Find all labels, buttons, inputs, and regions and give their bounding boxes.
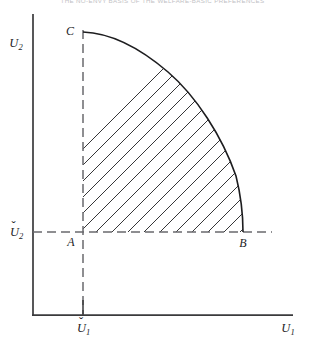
frontier-curve [83,32,243,232]
figure-container: THE NO-ENVY BASIS OF THE WELFARE-BASIC P… [0,0,325,351]
y-tick-label-u2hat: U2 ˇ [10,219,24,241]
point-label-a: A [66,235,75,249]
y-axis-label: U2 [9,36,23,52]
reference-lines [33,30,272,315]
x-axis-label: U1 [281,321,294,337]
point-label-b: B [239,236,247,250]
utility-possibility-frontier-diagram: U2 U1 U2 ˇ U1 ˇ C A B [0,0,325,351]
shaded-region-hatching [0,0,300,351]
point-label-c: C [66,24,75,38]
x-tick-label-u1hat: U1 ˇ [77,315,90,337]
